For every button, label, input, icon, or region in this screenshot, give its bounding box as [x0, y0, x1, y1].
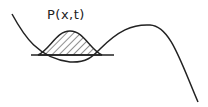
potential-curve [12, 14, 198, 102]
probability-distribution [38, 31, 102, 55]
diagram: P(x,t) [0, 0, 208, 107]
distribution-label: P(x,t) [47, 7, 85, 22]
diagram-svg [0, 0, 208, 107]
